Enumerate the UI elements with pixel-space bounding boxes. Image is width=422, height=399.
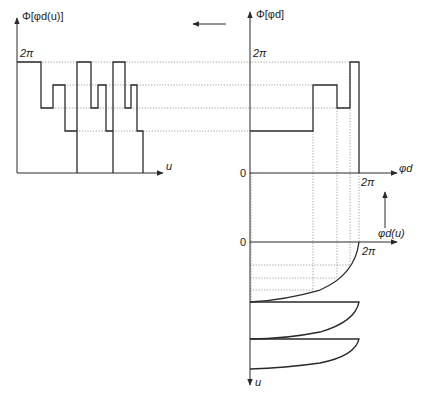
two-pi-label-left: 2π xyxy=(19,47,34,59)
u-axis-label: u xyxy=(255,376,261,388)
bottom-right-plot: 0 2π u xyxy=(240,236,397,388)
y-axis-label-right: Φ[φd] xyxy=(256,8,284,20)
y-axis-label-left: Φ[φd(u)] xyxy=(22,10,64,22)
phase-curve-3 xyxy=(250,339,359,369)
phase-curve-1 xyxy=(250,242,359,302)
diagram-stage: Φ[φd(u)] 2π u Φ[φd] 2π 0 2π φd φd(u) 0 2… xyxy=(0,0,422,399)
phase-curve-2 xyxy=(250,302,359,339)
x-end-label-top: 2π xyxy=(360,176,375,188)
top-right-plot: Φ[φd] 2π 0 2π φd xyxy=(240,8,413,242)
x-axis-label-right: φd xyxy=(399,162,413,174)
phase-quantization-diagram: Φ[φd(u)] 2π u Φ[φd] 2π 0 2π φd φd(u) 0 2… xyxy=(0,0,422,399)
x-end-label-bottom: 2π xyxy=(361,245,376,257)
origin-label-bottom: 0 xyxy=(240,236,246,248)
quantized-waveform xyxy=(17,62,143,173)
x-axis-label-left: u xyxy=(166,160,172,172)
phase-label: φd(u) xyxy=(378,227,405,239)
quantization-step-function xyxy=(250,62,359,173)
level-dotted-lines xyxy=(17,62,350,131)
projection-dotted-lines xyxy=(250,62,359,302)
two-pi-label-right: 2π xyxy=(252,47,267,59)
origin-label-top: 0 xyxy=(240,167,246,179)
top-left-plot: Φ[φd(u)] 2π u xyxy=(17,10,172,173)
